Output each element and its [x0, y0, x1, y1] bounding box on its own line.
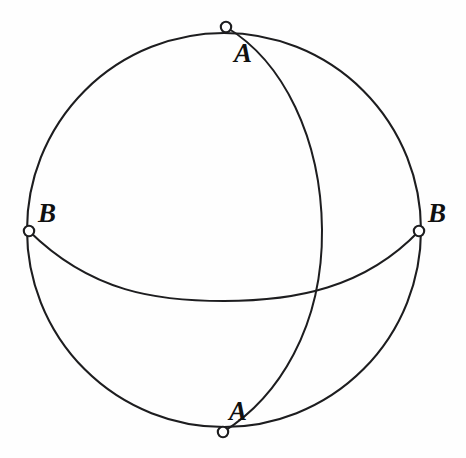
sphere-diagram-canvas: A A B B [0, 0, 466, 458]
sphere-diagram-svg: A A B B [0, 0, 466, 458]
point-marker-a-bottom [218, 427, 228, 437]
vertex-label-a-bottom: A [227, 396, 247, 426]
equator-great-circle [29, 231, 419, 301]
point-marker-a-top [221, 22, 231, 32]
vertex-label-a-top: A [232, 38, 252, 68]
point-marker-b-right [414, 226, 424, 236]
meridian-great-circle [223, 27, 322, 432]
vertex-label-b-right: B [427, 198, 446, 228]
sphere-outline-circle [27, 33, 421, 427]
point-marker-b-left [24, 226, 34, 236]
vertex-label-b-left: B [37, 198, 56, 228]
